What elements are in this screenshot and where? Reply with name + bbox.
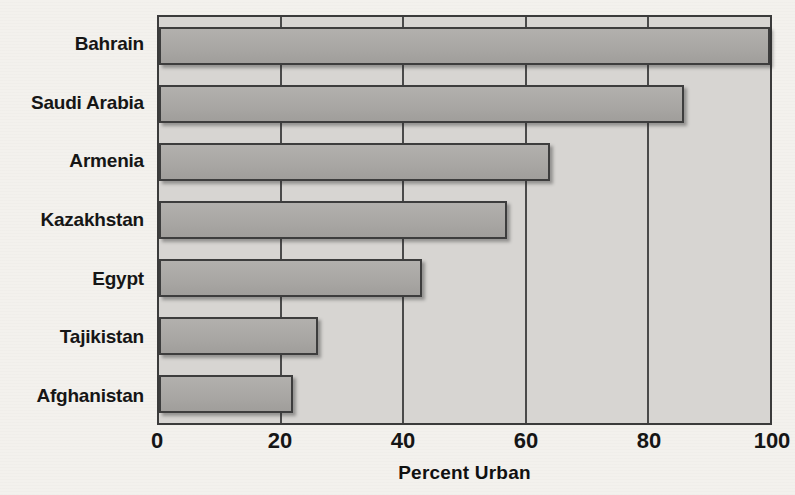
x-tick-label-80: 80 bbox=[637, 428, 661, 454]
chart-page: BahrainSaudi ArabiaArmeniaKazakhstanEgyp… bbox=[0, 0, 795, 495]
category-label: Kazakhstan bbox=[40, 209, 144, 231]
y-axis-label-saudi-arabia: Saudi Arabia bbox=[0, 74, 152, 133]
bar-row bbox=[159, 75, 770, 133]
y-axis-label-armenia: Armenia bbox=[0, 132, 152, 191]
category-label: Bahrain bbox=[75, 33, 144, 55]
y-axis-label-bahrain: Bahrain bbox=[0, 15, 152, 74]
bar-egypt bbox=[159, 259, 422, 297]
x-tick-label-0: 0 bbox=[151, 428, 163, 454]
x-tick-label-100: 100 bbox=[754, 428, 791, 454]
x-axis-tick-labels: 020406080100 bbox=[157, 428, 772, 458]
bar-row bbox=[159, 191, 770, 249]
bar-saudi-arabia bbox=[159, 85, 684, 123]
x-tick-label-60: 60 bbox=[514, 428, 538, 454]
bar-row bbox=[159, 17, 770, 75]
category-label: Egypt bbox=[92, 268, 144, 290]
category-label: Afghanistan bbox=[36, 385, 144, 407]
bar-afghanistan bbox=[159, 375, 293, 413]
bar-tajikistan bbox=[159, 317, 318, 355]
x-tick-label-40: 40 bbox=[391, 428, 415, 454]
category-label: Tajikistan bbox=[60, 326, 144, 348]
bar-row bbox=[159, 307, 770, 365]
category-label: Armenia bbox=[69, 150, 144, 172]
x-tick-label-20: 20 bbox=[268, 428, 292, 454]
x-axis-title: Percent Urban bbox=[157, 462, 772, 484]
bar-row bbox=[159, 133, 770, 191]
bar-kazakhstan bbox=[159, 201, 507, 239]
plot-area bbox=[157, 15, 772, 425]
bar-series bbox=[159, 17, 770, 423]
y-axis-category-labels: BahrainSaudi ArabiaArmeniaKazakhstanEgyp… bbox=[0, 15, 152, 425]
bar-armenia bbox=[159, 143, 550, 181]
y-axis-label-egypt: Egypt bbox=[0, 249, 152, 308]
y-axis-label-tajikistan: Tajikistan bbox=[0, 308, 152, 367]
y-axis-label-kazakhstan: Kazakhstan bbox=[0, 191, 152, 250]
category-label: Saudi Arabia bbox=[31, 92, 144, 114]
bar-row bbox=[159, 365, 770, 423]
bar-bahrain bbox=[159, 27, 770, 65]
bar-row bbox=[159, 249, 770, 307]
y-axis-label-afghanistan: Afghanistan bbox=[0, 366, 152, 425]
